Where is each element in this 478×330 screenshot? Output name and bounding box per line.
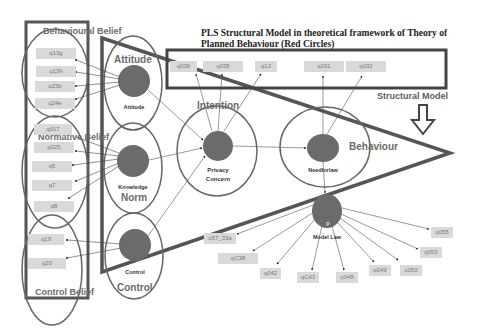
indicator-q23b: q23b [35, 81, 75, 92]
indicator-q055: q055 [431, 227, 453, 238]
indicator-q57-33a: q57_33a [204, 233, 236, 244]
norm-group-label: Norm [121, 192, 147, 203]
indicator-q20: q20 [28, 258, 66, 269]
indicator-qC38: qC38 [218, 253, 258, 264]
control-node-label: Control [120, 269, 150, 275]
behaviour-group-label: Behaviour [349, 141, 398, 152]
pls-structural-model-diagram: PLS Structural Model in theoretical fram… [0, 0, 478, 330]
indicator-q042: q042 [260, 268, 281, 279]
behaviour-node [307, 134, 339, 162]
indicator-q035: q035 [203, 61, 243, 72]
norm-node-label: Knowledge [116, 184, 150, 190]
control-belief-ellipse [22, 215, 82, 325]
attitude-node-label: Attitude [119, 104, 149, 110]
indicator-q049: q049 [369, 265, 391, 276]
indicator-qC43: qC43 [297, 272, 319, 283]
control-belief-label: Control Belief [35, 287, 94, 297]
model-law-node-label: Model Law [309, 234, 345, 240]
indicator-q13g: q13g [36, 48, 76, 59]
norm-node [117, 145, 149, 177]
indicator-q031: q031 [304, 61, 344, 72]
intention-group-label: Intention [197, 100, 239, 111]
down-arrow-icon [412, 105, 434, 134]
behaviour-node-label: Needforlaw [303, 167, 343, 173]
diagram-title: PLS Structural Model in theoretical fram… [201, 28, 461, 50]
indicator-c050: c050 [400, 265, 422, 276]
indicator-q19: q19 [28, 234, 64, 245]
indicator-q13h: q13h [36, 66, 76, 77]
indicator-q24e: q24e [35, 98, 75, 109]
indicator-q5: q5 [32, 161, 72, 172]
tpb-triangle [102, 38, 450, 272]
belief-column-frame [26, 22, 88, 298]
belief-paths [67, 60, 121, 258]
indicator-q036: q036 [170, 61, 197, 72]
structural-model-label: Structural Model [377, 91, 448, 101]
indicator-c048: c048 [336, 272, 358, 283]
intention-node-label-2: Concern [199, 176, 237, 182]
control-group-label: Control [117, 282, 153, 293]
indicator-q8: q8 [34, 201, 74, 212]
indicator-q017: q017 [34, 124, 72, 135]
indicator-q025: q025 [34, 142, 74, 153]
attitude-node [118, 65, 150, 97]
behavioural-belief-label: Behavioural Belief [43, 26, 122, 36]
intention-node-label-1: Privacy [200, 167, 236, 173]
title-line-1: PLS Structural Model in theoretical fram… [201, 28, 461, 39]
title-line-2: Planned Behaviour (Red Circles) [201, 39, 461, 50]
intention-node [203, 131, 233, 161]
indicator-q12: q12 [255, 61, 277, 72]
indicator-q053: q053 [420, 247, 442, 258]
indicator-q7: q7 [32, 180, 72, 191]
control-node [119, 229, 151, 261]
attitude-group-label: Attitude [114, 54, 152, 65]
indicator-q032: q032 [346, 61, 386, 72]
model-law-marker: P [325, 221, 331, 227]
